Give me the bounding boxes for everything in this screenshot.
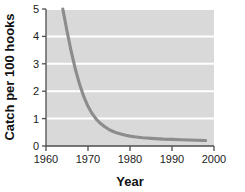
y-tick-label: 1 — [33, 113, 39, 125]
y-axis-title: Catch per 100 hooks — [2, 13, 17, 140]
y-tick-label: 2 — [33, 85, 39, 97]
x-axis-title: Year — [116, 174, 143, 189]
y-tick-label: 3 — [33, 58, 39, 70]
x-tick-label: 2000 — [202, 153, 226, 165]
y-tick-label: 4 — [33, 30, 39, 42]
x-tick-label: 1980 — [118, 153, 142, 165]
y-tick-label: 5 — [33, 3, 39, 15]
line-chart: 012345 19601970198019902000 Year Catch p… — [0, 0, 245, 192]
y-tick-label: 0 — [33, 140, 39, 152]
chart-figure: 012345 19601970198019902000 Year Catch p… — [0, 0, 245, 192]
plot-panel — [46, 9, 214, 146]
x-tick-label: 1970 — [76, 153, 100, 165]
x-tick-label: 1960 — [34, 153, 58, 165]
x-tick-label: 1990 — [160, 153, 184, 165]
